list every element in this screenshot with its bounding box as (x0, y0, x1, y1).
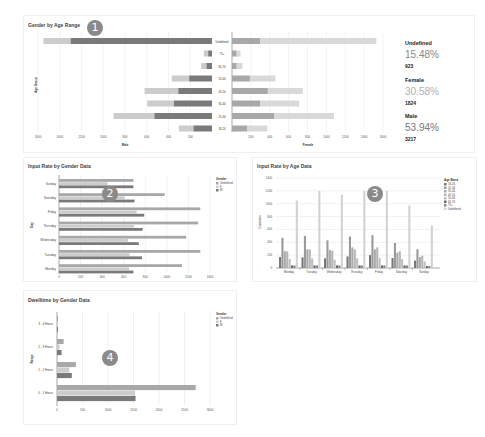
svg-text:400: 400 (267, 240, 272, 244)
svg-text:200: 200 (78, 275, 83, 279)
svg-text:Wednesday: Wednesday (40, 238, 56, 242)
svg-text:3000: 3000 (207, 408, 214, 412)
chart-input-rate-gender: 0200400600800100012001400SundaySaturdayF… (0, 0, 485, 437)
svg-text:Tuesday: Tuesday (306, 270, 317, 274)
svg-text:Friday: Friday (375, 270, 383, 274)
svg-text:1200: 1200 (185, 275, 192, 279)
svg-text:1000: 1000 (105, 408, 112, 412)
svg-text:1500: 1500 (130, 408, 137, 412)
svg-text:0: 0 (58, 275, 60, 279)
svg-text:600: 600 (121, 275, 126, 279)
svg-text:Range: Range (30, 354, 34, 364)
svg-text:800: 800 (267, 215, 272, 219)
svg-text:M: M (220, 188, 223, 192)
svg-text:Tuesday: Tuesday (45, 253, 57, 257)
svg-text:1000: 1000 (164, 275, 171, 279)
svg-text:Undefined: Undefined (448, 207, 461, 211)
svg-text:Sunday: Sunday (46, 182, 57, 186)
svg-text:0: 0 (56, 408, 58, 412)
svg-text:200: 200 (267, 253, 272, 257)
svg-text:3 - 4 Hours: 3 - 4 Hours (38, 322, 53, 326)
svg-text:600: 600 (267, 227, 272, 231)
svg-text:Saturday: Saturday (396, 270, 408, 274)
svg-text:1400: 1400 (207, 275, 214, 279)
svg-text:M: M (220, 323, 223, 327)
svg-text:Sunday: Sunday (419, 270, 429, 274)
marker-2: 2 (102, 186, 118, 202)
svg-text:Undefined: Undefined (220, 181, 233, 185)
svg-text:2 - 3 Hours: 2 - 3 Hours (38, 345, 53, 349)
svg-text:500: 500 (80, 408, 85, 412)
svg-text:Undefined: Undefined (220, 316, 233, 320)
svg-text:2500: 2500 (181, 408, 188, 412)
svg-text:Thursday: Thursday (351, 270, 363, 274)
marker-4: 4 (102, 350, 118, 366)
svg-text:800: 800 (143, 275, 148, 279)
svg-text:1000: 1000 (266, 202, 273, 206)
svg-text:400: 400 (100, 275, 105, 279)
svg-text:Day: Day (30, 222, 34, 228)
svg-text:Saturday: Saturday (44, 196, 57, 200)
svg-text:Monday: Monday (284, 270, 295, 274)
marker-3: 3 (367, 186, 383, 202)
svg-text:Customers: Customers (258, 215, 262, 229)
svg-text:Thursday: Thursday (43, 224, 56, 228)
svg-text:1 - 2 Hours: 1 - 2 Hours (38, 368, 53, 372)
svg-text:1400: 1400 (266, 176, 273, 180)
svg-text:Friday: Friday (48, 210, 57, 214)
svg-text:Wednesday: Wednesday (327, 270, 342, 274)
svg-text:0 - 1 Hours: 0 - 1 Hours (38, 391, 53, 395)
svg-text:1200: 1200 (266, 189, 273, 193)
svg-text:2000: 2000 (156, 408, 163, 412)
svg-text:0: 0 (270, 266, 272, 270)
svg-text:Monday: Monday (45, 267, 56, 271)
